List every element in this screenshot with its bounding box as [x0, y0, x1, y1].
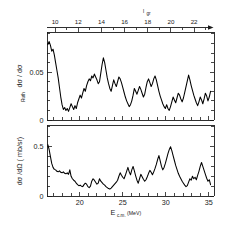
x-tick-label: 30 — [162, 198, 170, 207]
lgr-tick-label: 20 — [167, 18, 174, 25]
figure-container: 10121416182022 l gr 00.05 dσ / dσ Ruth — [0, 0, 231, 225]
lgr-tick-label: 12 — [75, 18, 82, 25]
lgr-tick-label: 10 — [52, 18, 59, 25]
x-tick-label: 20 — [76, 198, 84, 207]
bottom-panel-ylabel: dσ /dΩ ( mb/sr) — [15, 137, 24, 186]
lgr-axis-arrow-icon — [208, 25, 214, 29]
bottom-panel: 00.5 20253035 dσ /dΩ ( mb/sr) E c.m. (Me… — [15, 125, 214, 218]
lgr-tick-label: 16 — [121, 18, 128, 25]
bottom-panel-y-tick-labels: 00.5 — [34, 142, 44, 200]
x-axis-label-unit: (MeV) — [127, 210, 141, 216]
x-axis-label: E — [111, 208, 116, 217]
lgr-axis-title: l — [143, 8, 144, 14]
lgr-tick-labels: 10121416182022 — [52, 18, 198, 25]
top-panel: 00.05 dσ / dσ Ruth — [15, 32, 214, 125]
bottom-panel-x-ticks — [54, 192, 209, 197]
x-axis-label-group: E c.m. (MeV) — [111, 208, 142, 218]
top-panel-ylabel-subscript: Ruth — [21, 92, 26, 102]
top-panel-ylabel: dσ / dσ — [15, 64, 24, 87]
excitation-function-figure: 10121416182022 l gr 00.05 dσ / dσ Ruth — [0, 0, 231, 225]
top-panel-x-ticks — [54, 116, 209, 121]
bottom-panel-ylabel-group: dσ /dΩ ( mb/sr) — [15, 137, 24, 186]
bottom-y-tick-label: 0.5 — [34, 142, 44, 151]
lgr-axis-title-subscript: gr — [147, 11, 152, 16]
lgr-tick-label: 14 — [98, 18, 105, 25]
lgr-tick-label: 22 — [191, 18, 198, 25]
x-tick-label: 25 — [119, 198, 127, 207]
lgr-tick-label: 18 — [144, 18, 151, 25]
bottom-panel-y-ticks — [47, 127, 214, 196]
top-y-tick-label: 0 — [40, 116, 44, 125]
x-axis-label-subscript: c.m. — [117, 213, 126, 218]
top-panel-data-curve — [48, 42, 211, 112]
top-y-tick-label: 0.05 — [30, 68, 44, 77]
bottom-panel-x-tick-labels: 20253035 — [76, 198, 213, 207]
top-panel-ylabel-group: dσ / dσ Ruth — [15, 64, 26, 102]
x-tick-label: 35 — [205, 198, 213, 207]
bottom-y-tick-label: 0 — [40, 192, 44, 201]
lgr-tick-marks — [55, 28, 206, 32]
bottom-panel-data-curve — [48, 145, 211, 189]
top-lgr-axis: 10121416182022 l gr — [47, 8, 214, 32]
top-panel-y-tick-labels: 00.05 — [30, 68, 44, 125]
